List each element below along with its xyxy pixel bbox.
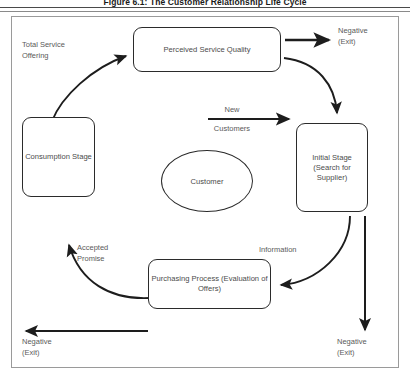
edge-label-customers: Customers <box>200 124 264 135</box>
node-initial-stage[interactable]: Initial Stage (Search for Supplier) <box>296 123 368 212</box>
node-consumption-stage[interactable]: Consumption Stage <box>22 117 95 197</box>
node-purchasing-process[interactable]: Purchasing Process (Evaluation of Offers… <box>148 259 271 309</box>
node-consumption-stage-label: Consumption Stage <box>25 152 92 162</box>
exit-label-bottom-left: Negative (Exit) <box>22 337 84 358</box>
title-rule-top <box>0 7 410 8</box>
exit-label-top-right: Negative (Exit) <box>338 26 400 47</box>
title-rule-bottom <box>0 11 410 12</box>
node-initial-stage-label: Initial Stage (Search for Supplier) <box>299 153 365 183</box>
edge-label-total-service-offering: Total Service Offering <box>22 40 108 61</box>
node-purchasing-process-label: Purchasing Process (Evaluation of Offers… <box>151 274 268 294</box>
node-perceived-service-quality[interactable]: Perceived Service Quality <box>133 27 281 72</box>
edge-label-information: Information <box>259 245 321 256</box>
node-customer-label: Customer <box>191 177 224 186</box>
edge-label-accepted-promise: Accepted Promise <box>77 243 139 264</box>
node-customer[interactable]: Customer <box>161 150 253 212</box>
node-perceived-service-quality-label: Perceived Service Quality <box>164 45 251 55</box>
figure-container: Figure 6.1: The Customer Relationship Li… <box>0 0 410 373</box>
edge-label-new: New <box>208 105 256 116</box>
exit-label-bottom-right: Negative (Exit) <box>337 337 399 358</box>
